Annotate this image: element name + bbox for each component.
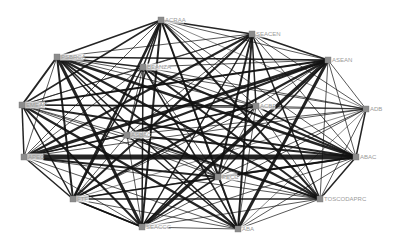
- node-asean[interactable]: ASEAN: [325, 57, 352, 64]
- node-acraa[interactable]: ACRAA: [158, 17, 186, 24]
- node-pecc[interactable]: PECC: [215, 174, 239, 181]
- node-square-icon[interactable]: [140, 64, 146, 70]
- node-label: ASEAN: [332, 57, 352, 63]
- node-label: SEACCC: [146, 224, 172, 230]
- node-label: FTF: [77, 196, 88, 202]
- node-label: ABAC: [360, 154, 377, 160]
- node-square-icon[interactable]: [235, 226, 241, 232]
- node-square-icon[interactable]: [353, 154, 359, 160]
- node-square-icon[interactable]: [139, 224, 145, 230]
- node-emeap[interactable]: EMEAP: [19, 102, 47, 109]
- node-square-icon[interactable]: [70, 196, 76, 202]
- node-square-icon[interactable]: [363, 106, 369, 112]
- node-toscodaprc[interactable]: TOSCODAPRC: [317, 196, 367, 203]
- node-square-icon[interactable]: [158, 17, 164, 23]
- node-square-icon[interactable]: [21, 154, 27, 160]
- node-acbf[interactable]: ACBF: [253, 103, 276, 110]
- node-label: ASBAC: [131, 132, 152, 138]
- node-square-icon[interactable]: [249, 31, 255, 37]
- node-label: APEC: [28, 154, 45, 160]
- edge-emeap-psbrca: [22, 57, 57, 105]
- edge-adb-abac: [356, 109, 366, 157]
- node-ftf[interactable]: FTF: [70, 196, 89, 203]
- node-seaccc[interactable]: SEACCC: [139, 224, 172, 231]
- node-aba[interactable]: ABA: [235, 226, 254, 233]
- node-square-icon[interactable]: [317, 196, 323, 202]
- edge-apec-toscodaprc: [24, 157, 320, 199]
- node-adb[interactable]: ADB: [363, 106, 382, 113]
- node-square-icon[interactable]: [19, 102, 25, 108]
- node-square-icon[interactable]: [54, 54, 60, 60]
- node-label: SEACEN: [256, 31, 281, 37]
- edge-asean-adb: [328, 60, 366, 109]
- node-square-icon[interactable]: [253, 103, 259, 109]
- node-apec[interactable]: APEC: [21, 154, 45, 161]
- node-label: BEANZA: [147, 64, 171, 70]
- edge-beanza-emeap: [22, 67, 143, 105]
- edge-beanza-seaccc: [142, 67, 143, 227]
- node-abac[interactable]: ABAC: [353, 154, 377, 161]
- node-label: ACRAA: [165, 17, 186, 23]
- node-label: ABA: [242, 226, 254, 232]
- node-square-icon[interactable]: [124, 132, 130, 138]
- node-label: PSBRCA: [61, 54, 86, 60]
- node-asbac[interactable]: ASBAC: [124, 132, 152, 139]
- node-label: ACBF: [260, 103, 276, 109]
- network-graph-svg: ACRAASEACENASEANPSBRCABEANZAEMEAPACBFADB…: [0, 0, 401, 247]
- edge-apec-emeap: [22, 105, 24, 157]
- node-label: EMEAP: [26, 102, 47, 108]
- node-square-icon[interactable]: [215, 174, 221, 180]
- node-psbrca[interactable]: PSBRCA: [54, 54, 86, 61]
- node-seacen[interactable]: SEACEN: [249, 31, 281, 38]
- node-label: PECC: [222, 174, 239, 180]
- network-graph: ACRAASEACENASEANPSBRCABEANZAEMEAPACBFADB…: [0, 0, 401, 247]
- node-beanza[interactable]: BEANZA: [140, 64, 171, 71]
- node-label: TOSCODAPRC: [324, 196, 367, 202]
- node-square-icon[interactable]: [325, 57, 331, 63]
- node-label: ADB: [370, 106, 382, 112]
